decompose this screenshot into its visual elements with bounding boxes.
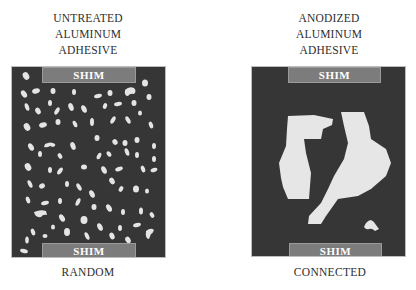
left-heading: UNTREATED ALUMINUM ADHESIVE bbox=[38, 10, 138, 58]
right-heading-line-3: ADHESIVE bbox=[279, 42, 379, 58]
left-heading-line-1: UNTREATED bbox=[38, 10, 138, 26]
right-heading: ANODIZED ALUMINUM ADHESIVE bbox=[279, 10, 379, 58]
random-voids-diagram bbox=[12, 67, 166, 258]
right-heading-line-2: ALUMINUM bbox=[279, 26, 379, 42]
left-top-shim: SHIM bbox=[42, 67, 136, 83]
right-caption: CONNECTED bbox=[275, 266, 385, 278]
left-adhesive-panel: SHIM SHIM bbox=[11, 66, 166, 258]
right-adhesive-panel: SHIM SHIM bbox=[251, 66, 406, 257]
left-heading-line-2: ALUMINUM bbox=[38, 26, 138, 42]
right-bottom-shim: SHIM bbox=[289, 243, 382, 257]
right-top-shim: SHIM bbox=[288, 67, 381, 83]
left-heading-line-3: ADHESIVE bbox=[38, 42, 138, 58]
connected-voids-diagram bbox=[252, 67, 406, 257]
right-heading-line-1: ANODIZED bbox=[279, 10, 379, 26]
left-bottom-shim: SHIM bbox=[42, 243, 136, 258]
left-caption: RANDOM bbox=[38, 266, 138, 278]
